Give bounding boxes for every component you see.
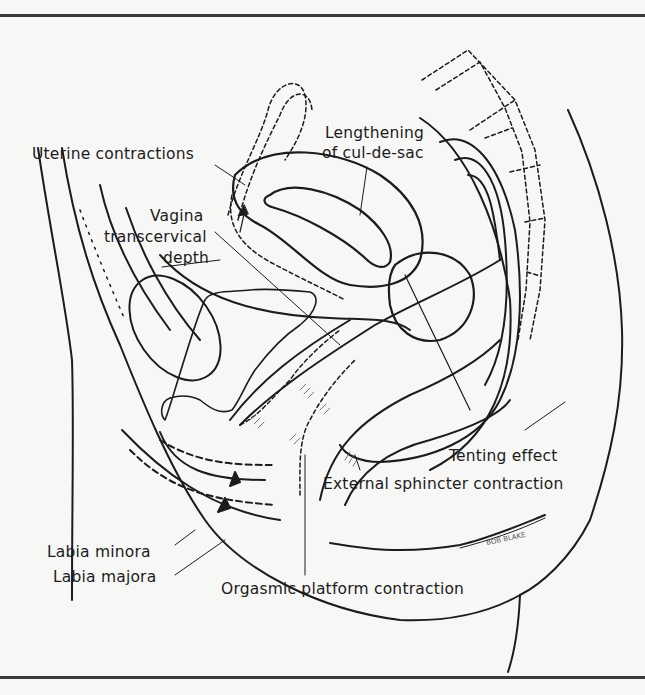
label-lengthening-line2: of cul-de-sac (322, 144, 424, 162)
label-labia-minora: Labia minora (47, 543, 151, 561)
label-vagina-line3: depth (163, 249, 209, 267)
hatching (250, 384, 358, 466)
label-tenting-effect: Tenting effect (449, 447, 558, 465)
label-vagina-line1: Vagina (150, 207, 204, 225)
label-orgasmic-platform-contraction: Orgasmic platform contraction (221, 580, 464, 598)
rectum (340, 118, 520, 470)
bladder (162, 289, 316, 420)
label-lengthening-line1: Lengthening (325, 124, 424, 142)
label-labia-majora: Labia majora (53, 568, 156, 586)
vagina (160, 255, 510, 505)
labia (122, 430, 280, 520)
dashed-uterus-outline (228, 84, 345, 300)
symphysis-oval (111, 259, 240, 398)
sacrum-dashed (422, 50, 545, 340)
uterus (233, 152, 474, 341)
label-external-sphincter-contraction: External sphincter contraction (323, 475, 564, 493)
label-vagina-line2: transcervical (104, 228, 207, 246)
label-uterine-contractions: Uterine contractions (32, 145, 194, 163)
